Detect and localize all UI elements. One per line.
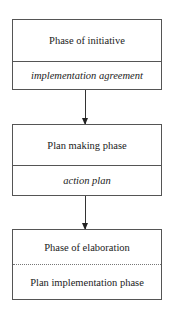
down-arrow-icon (85, 90, 86, 124)
down-arrow-icon (85, 196, 86, 229)
box-title: Phase of initiative (13, 20, 161, 61)
box-title: Plan making phase (13, 125, 161, 165)
box-subtitle: action plan (13, 165, 161, 195)
box-title: Phase of elaboration (13, 230, 161, 264)
plan-making-phase-box: Plan making phase action plan (12, 124, 162, 196)
phase-of-elaboration-box: Phase of elaboration Plan implementation… (12, 229, 162, 300)
phase-of-initiative-box: Phase of initiative implementation agree… (12, 19, 162, 90)
box-subtitle: implementation agreement (13, 61, 161, 89)
box-subtitle: Plan implementation phase (13, 264, 161, 299)
